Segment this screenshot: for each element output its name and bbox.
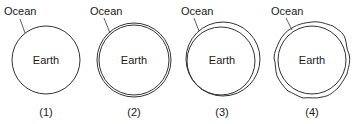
- diagram-3: Ocean Earth (3): [181, 5, 260, 118]
- earth-ocean-diagrams: Ocean Earth (1) Ocean Earth (2) Ocean Ea…: [0, 0, 362, 124]
- diagram-2: Ocean Earth (2): [90, 5, 171, 118]
- ocean-label: Ocean: [90, 5, 122, 17]
- diagram-index: (1): [39, 106, 52, 118]
- ocean-label: Ocean: [271, 5, 303, 17]
- diagram-index: (2): [127, 106, 140, 118]
- ocean-pointer-line: [104, 18, 110, 33]
- diagram-4: Ocean Earth (4): [271, 5, 350, 118]
- ocean-label: Ocean: [4, 5, 36, 17]
- ocean-label: Ocean: [181, 5, 213, 17]
- diagram-index: (3): [215, 106, 228, 118]
- ocean-pointer-line: [286, 18, 292, 30]
- earth-label: Earth: [299, 54, 325, 66]
- diagram-index: (4): [305, 106, 318, 118]
- earth-label: Earth: [121, 54, 147, 66]
- earth-label: Earth: [209, 54, 235, 66]
- earth-label: Earth: [33, 54, 59, 66]
- ocean-pointer-line: [194, 18, 199, 31]
- ocean-pointer-line: [20, 19, 25, 33]
- diagram-1: Ocean Earth (1): [4, 5, 80, 118]
